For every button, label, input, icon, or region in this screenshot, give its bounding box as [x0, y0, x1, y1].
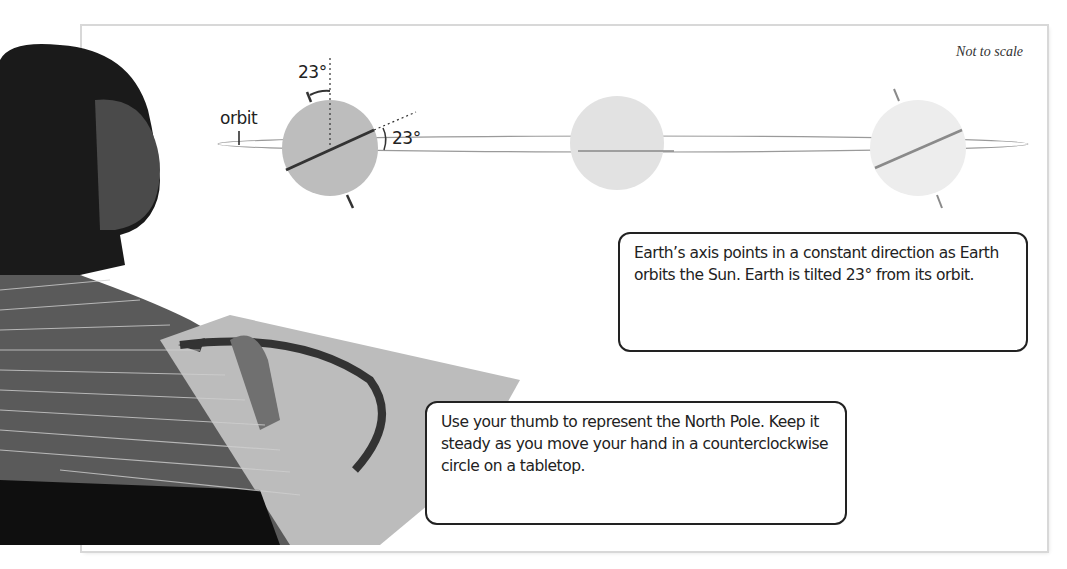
tilt-angle-top-label: 23° [298, 62, 327, 82]
earth-right [870, 89, 966, 208]
callout-thumb-instructions: Use your thumb to represent the North Po… [425, 401, 847, 525]
earth-middle [570, 96, 674, 190]
tilt-angle-side-label: 23° [392, 128, 421, 148]
callout-axis-direction: Earth’s axis points in a constant direct… [618, 232, 1028, 352]
orbit-label: orbit [220, 108, 257, 128]
